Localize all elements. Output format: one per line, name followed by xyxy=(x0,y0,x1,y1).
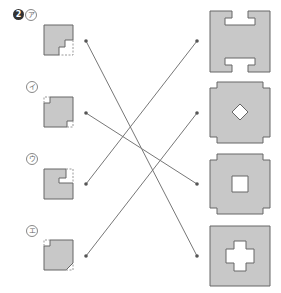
left-dot-i[interactable] xyxy=(84,111,88,115)
left-dot-a[interactable] xyxy=(84,39,88,43)
left-piece-u xyxy=(44,169,73,199)
right-shape-diamond-hole xyxy=(210,82,270,143)
line-i-to-square-hole xyxy=(86,113,197,184)
connection-lines xyxy=(86,41,197,256)
right-dot-3[interactable] xyxy=(195,182,199,186)
right-dot-1[interactable] xyxy=(195,39,199,43)
right-dot-2[interactable] xyxy=(195,111,199,115)
right-shape-h xyxy=(210,11,270,72)
right-shape-cross-hole xyxy=(210,226,270,286)
left-piece-i xyxy=(44,97,73,127)
left-dot-e[interactable] xyxy=(84,254,88,258)
line-u-to-h xyxy=(86,41,197,184)
left-piece-a xyxy=(44,25,73,55)
right-dot-4[interactable] xyxy=(195,254,199,258)
matching-diagram: 2ア イ ウ エ xyxy=(0,0,281,293)
right-shape-square-hole xyxy=(210,154,270,214)
left-dot-u[interactable] xyxy=(84,182,88,186)
left-piece-e xyxy=(44,240,73,270)
diagram-svg xyxy=(0,0,281,293)
line-e-to-diamond xyxy=(86,113,197,256)
